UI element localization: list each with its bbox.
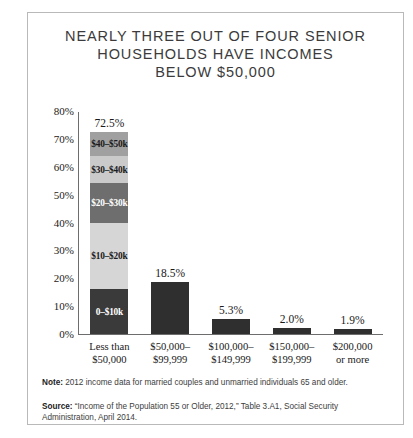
stacked-segment: $10–$20k xyxy=(90,223,128,290)
bar xyxy=(151,282,189,334)
stacked-segment-label: $10–$20k xyxy=(91,251,127,261)
note-body: 2012 income data for married couples and… xyxy=(63,378,348,387)
stacked-segment: $40–$50k xyxy=(90,132,128,156)
y-axis-tick-label: 0% xyxy=(40,328,74,340)
note-text: Note: 2012 income data for married coupl… xyxy=(42,377,392,388)
stacked-segment-label: $20–$30k xyxy=(91,198,127,208)
bar-column: 0–$10k$10–$20k$20–$30k$30–$40k$40–$50k72… xyxy=(90,105,128,335)
stacked-segment-label: $30–$40k xyxy=(91,165,127,175)
y-axis-tick-label: 60% xyxy=(40,161,74,173)
stacked-segment-label: 0–$10k xyxy=(96,307,123,317)
bar: 0–$10k$10–$20k$20–$30k$30–$40k$40–$50k xyxy=(90,132,128,334)
bar xyxy=(334,329,372,334)
bar-column: 2.0% xyxy=(273,105,311,335)
y-axis-tick-label: 70% xyxy=(40,133,74,145)
stacked-segment: $20–$30k xyxy=(90,183,128,222)
bar-value-label: 72.5% xyxy=(72,117,146,129)
bar-value-label: 1.9% xyxy=(316,314,390,326)
bar-value-label: 18.5% xyxy=(133,267,207,279)
note-label: Note: xyxy=(42,378,63,387)
x-axis-tick-label: $150,000– $199,999 xyxy=(261,341,322,366)
plot-area: 80%70%60%50%40%30%20%10%0% 0–$10k$10–$20… xyxy=(50,105,385,345)
y-axis-tick-label: 80% xyxy=(40,105,74,117)
x-axis-tick-label: $100,000– $149,999 xyxy=(201,341,262,366)
chart-figure: NEARLY THREE OUT OF FOUR SENIOR HOUSEHOL… xyxy=(27,12,404,425)
bar-series: 0–$10k$10–$20k$20–$30k$30–$40k$40–$50k72… xyxy=(79,105,383,335)
bar xyxy=(273,328,311,334)
stacked-segment: $30–$40k xyxy=(90,156,128,184)
bar-column: 18.5% xyxy=(151,105,189,335)
chart-title: NEARLY THREE OUT OF FOUR SENIOR HOUSEHOL… xyxy=(28,27,403,81)
source-label: Source: xyxy=(42,402,72,411)
x-axis-tick-label: $50,000– $99,999 xyxy=(140,341,201,366)
x-axis-tick-label: $200,000 or more xyxy=(322,341,383,366)
source-text: Source: “Income of the Population 55 or … xyxy=(42,401,390,423)
x-axis-tick-label: Less than $50,000 xyxy=(79,341,140,366)
source-body: “Income of the Population 55 or Older, 2… xyxy=(42,402,338,422)
y-axis-tick-label: 20% xyxy=(40,272,74,284)
stacked-segment-label: $40–$50k xyxy=(91,139,127,149)
bar-column: 5.3% xyxy=(212,105,250,335)
y-axis-tick-label: 40% xyxy=(40,217,74,229)
y-axis-tick-label: 50% xyxy=(40,189,74,201)
bar-column: 1.9% xyxy=(334,105,372,335)
stacked-segment: 0–$10k xyxy=(90,289,128,334)
x-axis-tick-labels: Less than $50,000$50,000– $99,999$100,00… xyxy=(79,341,383,375)
bar xyxy=(212,319,250,334)
y-axis-tick-label: 30% xyxy=(40,244,74,256)
y-axis-tick-label: 10% xyxy=(40,300,74,312)
